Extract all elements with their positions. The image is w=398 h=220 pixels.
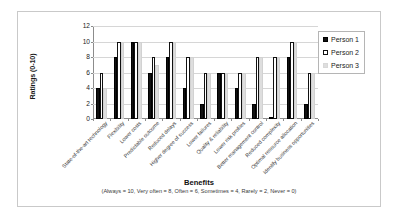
- bar: [225, 73, 229, 120]
- bar: [259, 57, 263, 119]
- bar: [155, 65, 159, 119]
- bar-group: [197, 26, 214, 119]
- bar: [207, 73, 211, 120]
- x-tick-mark: [162, 119, 163, 121]
- x-tick-mark: [301, 119, 302, 121]
- legend-item: Person 2: [323, 49, 359, 56]
- x-tick-mark: [145, 119, 146, 121]
- legend-label: Person 2: [331, 49, 359, 56]
- x-tick-mark: [180, 119, 181, 121]
- bar: [173, 42, 177, 120]
- y-tick-label: 6: [86, 69, 90, 76]
- x-tick-mark: [93, 119, 94, 121]
- legend-swatch-icon: [323, 63, 328, 68]
- y-tick-label: 2: [86, 100, 90, 107]
- x-tick-mark: [231, 119, 232, 121]
- bar: [294, 42, 298, 120]
- bar: [242, 73, 246, 120]
- bar-group: [162, 26, 179, 119]
- bar-group: [214, 26, 231, 119]
- bar: [277, 57, 281, 119]
- x-tick-mark: [266, 119, 267, 121]
- chart-container: Ratings (0-10) 024681012 State-of-the-ar…: [17, 11, 381, 207]
- x-tick-mark: [197, 119, 198, 121]
- x-tick-mark: [110, 119, 111, 121]
- bar: [138, 42, 142, 120]
- bar-group: [180, 26, 197, 119]
- plot-area: 024681012: [93, 26, 318, 119]
- bar: [311, 73, 315, 120]
- bar-group: [93, 26, 110, 119]
- bar-group: [232, 26, 249, 119]
- bar-group: [249, 26, 266, 119]
- x-tick-mark: [249, 119, 250, 121]
- y-tick-label: 4: [86, 85, 90, 92]
- legend-item: Person 3: [323, 62, 359, 69]
- legend-swatch-icon: [323, 50, 328, 55]
- x-tick-mark: [283, 119, 284, 121]
- legend-item: Person 1: [323, 36, 359, 43]
- x-tick-mark: [128, 119, 129, 121]
- bar: [103, 88, 107, 119]
- x-axis-note: (Always = 10, Very often = 8, Often = 6,…: [18, 188, 380, 194]
- y-tick-label: 10: [83, 38, 90, 45]
- y-tick-label: 8: [86, 54, 90, 61]
- bar-group: [128, 26, 145, 119]
- y-tick-label: 12: [83, 23, 90, 30]
- bar: [121, 42, 125, 120]
- x-axis-title: Benefits: [18, 178, 380, 187]
- y-tick-label: 0: [86, 116, 90, 123]
- bar-group: [266, 26, 283, 119]
- bar-group: [301, 26, 318, 119]
- bar-group: [283, 26, 300, 119]
- x-axis-label: State-of-the-art technology: [60, 120, 108, 169]
- x-tick-mark: [318, 119, 319, 121]
- legend-label: Person 1: [331, 36, 359, 43]
- y-axis-title: Ratings (0-10): [28, 42, 37, 112]
- legend-swatch-icon: [323, 37, 328, 42]
- bar-group: [110, 26, 127, 119]
- legend-label: Person 3: [331, 62, 359, 69]
- chart-legend: Person 1Person 2Person 3: [318, 31, 365, 74]
- bar-group: [145, 26, 162, 119]
- x-tick-mark: [214, 119, 215, 121]
- bar: [190, 57, 194, 119]
- bar-groups: [93, 26, 318, 119]
